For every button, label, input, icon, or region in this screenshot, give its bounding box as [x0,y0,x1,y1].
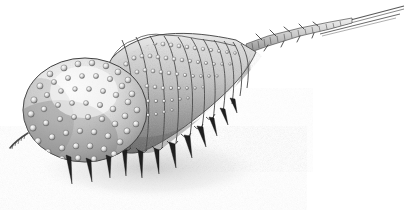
organism-illustration [0,0,412,215]
illustration-figure: tubercled worm-like invertebrate Segment… [0,0,412,215]
